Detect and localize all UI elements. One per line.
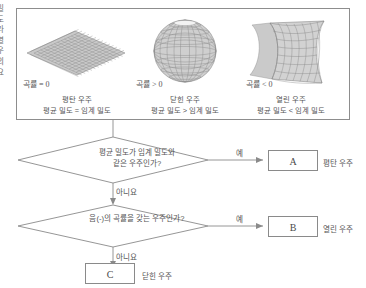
decision-2-question: 음(-)의 곡률을 갖는 우주인가? (52, 214, 222, 225)
arrowhead (256, 223, 263, 229)
caption-title: 평탄 우주 (21, 95, 133, 106)
caption-condition: 평균 밀도 < 임계 밀도 (235, 106, 347, 117)
side-text-line: 요 (0, 68, 12, 79)
caption-title: 열린 우주 (235, 95, 347, 106)
universe-geometry-panel: 곡률 = 0 곡률 > 0 (16, 8, 350, 120)
saddle-grid-surface-icon (236, 13, 346, 87)
caption-closed-universe: 닫힌 우주 평균 밀도 > 임계 밀도 (129, 95, 241, 116)
side-text-line: 라 (0, 25, 12, 36)
caption-open-universe: 열린 우주 평균 밀도 < 임계 밀도 (235, 95, 347, 116)
arrowhead (256, 157, 263, 163)
caption-condition: 평균 밀도 = 임계 밀도 (21, 106, 133, 117)
curvature-label-flat: 곡률 = 0 (21, 78, 133, 89)
caption-condition: 평균 밀도 > 임계 밀도 (129, 106, 241, 117)
curvature-label-closed: 곡률 > 0 (130, 78, 246, 89)
decision-diamond-2 (18, 205, 208, 247)
side-text-line: 밀 (0, 4, 12, 15)
panel-flat-universe: 곡률 = 0 (21, 13, 131, 87)
question-line-2: 같은 우주인가? (113, 159, 161, 168)
edge-label-q2-yes: 예 (236, 213, 243, 224)
decision-1-question: 평균 밀도가 임계 밀도와 같은 우주인가? (62, 148, 212, 169)
edge-label-q1-no: 아니요 (116, 186, 137, 197)
panel-closed-universe: 곡률 > 0 (130, 13, 240, 87)
question-line-1: 평균 밀도가 임계 밀도와 (99, 148, 175, 157)
result-caption-c: 닫힌 우주 (142, 270, 172, 281)
side-text-line: 의 (0, 57, 12, 68)
side-text-line: 열 (0, 36, 12, 47)
result-caption-a: 평탄 우주 (323, 157, 353, 168)
result-box-c: C (85, 263, 135, 284)
flat-plane-grid-surface-icon (21, 13, 131, 87)
arrowhead (110, 198, 116, 205)
edge-label-q2-no: 아니요 (116, 251, 137, 262)
question-line-1: 음(-)의 곡률을 갖는 우주인가? (89, 214, 184, 223)
side-text-line: 도 (0, 15, 12, 26)
sphere-grid-surface-icon (130, 13, 240, 87)
result-box-b: B (268, 216, 318, 237)
result-caption-b: 열린 우주 (323, 223, 353, 234)
curvature-label-open: 곡률 < 0 (236, 78, 356, 89)
side-text-line: 우 (0, 46, 12, 57)
panel-open-universe: 곡률 < 0 (236, 13, 346, 87)
edge-label-q1-yes: 예 (236, 147, 243, 158)
caption-flat-universe: 평탄 우주 평균 밀도 = 임계 밀도 (21, 95, 133, 116)
result-box-a: A (268, 150, 318, 171)
left-margin-vertical-text: 밀 도 라 열 우 의 요 (0, 4, 12, 78)
caption-title: 닫힌 우주 (129, 95, 241, 106)
